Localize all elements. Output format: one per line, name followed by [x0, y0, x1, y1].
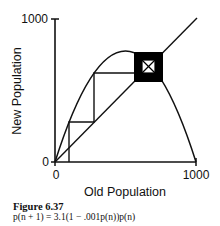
map-curve: [55, 51, 196, 162]
diagonal-line: [55, 18, 197, 162]
x-tick-label-1000: 1000: [183, 168, 210, 182]
cobweb-plot: 1000 0 0 1000 New Population Old Populat…: [0, 0, 220, 200]
y-tick-label-0: 0: [42, 155, 49, 169]
y-axis-label: New Population: [10, 47, 24, 135]
cobweb-path: [69, 73, 143, 162]
figure-equation: p(n + 1) = 3.1(1 − .001p(n))p(n): [13, 212, 135, 223]
figure-caption: Figure 6.37 p(n + 1) = 3.1(1 − .001p(n))…: [13, 201, 135, 223]
x-tick-label-0: 0: [53, 168, 60, 182]
x-axis-label: Old Population: [84, 185, 166, 199]
y-tick-label-1000: 1000: [21, 12, 48, 26]
figure-title: Figure 6.37: [13, 201, 135, 212]
